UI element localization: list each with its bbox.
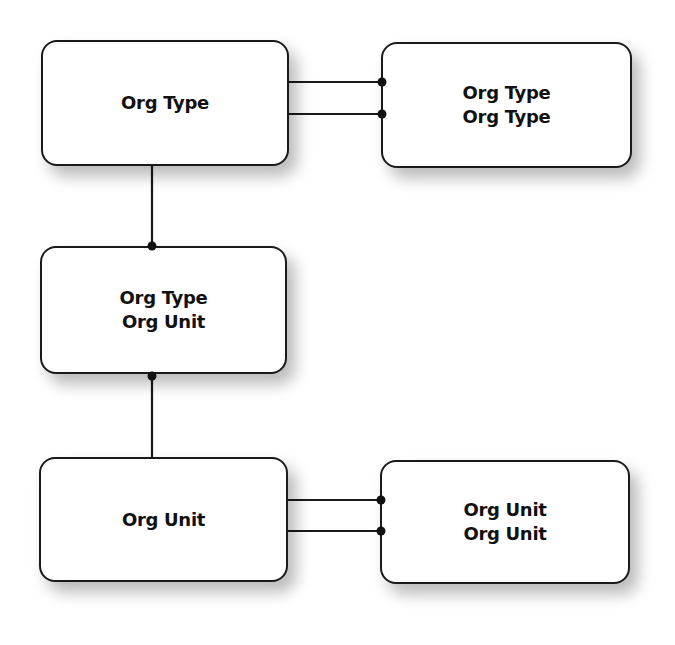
entity-org-type-org-type: Org Type Org Type <box>381 42 632 168</box>
entity-label-line-2: Org Unit <box>463 522 546 546</box>
entity-label-line-1: Org Type <box>120 286 208 310</box>
diagram-canvas: Org Type Org Type Org Type Org Type Org … <box>0 0 675 645</box>
entity-org-unit: Org Unit <box>39 457 288 582</box>
entity-label-line-2: Org Type <box>463 105 551 129</box>
entity-label-line-1: Org Unit <box>463 498 546 522</box>
entity-label-line-1: Org Type <box>463 81 551 105</box>
entity-org-type: Org Type <box>41 40 289 166</box>
entity-label: Org Type <box>121 91 209 115</box>
entity-label: Org Unit <box>122 508 205 532</box>
entity-label-line-2: Org Unit <box>122 310 205 334</box>
entity-org-type-org-unit: Org Type Org Unit <box>40 246 287 374</box>
entity-org-unit-org-unit: Org Unit Org Unit <box>380 460 630 584</box>
